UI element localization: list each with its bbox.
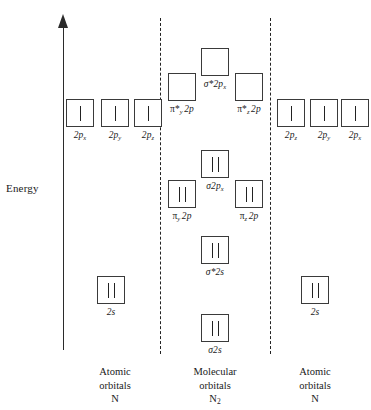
caption-left-species: N [99, 392, 131, 406]
orbital-label-sigma-star-2s: σ*2s [206, 267, 224, 277]
orbital-label-left-2s: 2s [107, 307, 116, 317]
orbital-label-pi-y-2p: πy2p [172, 211, 191, 221]
caption-molecular: Molecular orbitals N2 [193, 365, 236, 407]
orbital-label-sigma-2s: σ2s [208, 345, 221, 355]
mo-diagram: Energy 2px2py2pz2sσ*2pxπ*y2pπ*z2pσ2pxπy2… [0, 0, 371, 410]
energy-axis-line [63, 26, 64, 350]
electron-arrow-icon [148, 106, 149, 121]
electron-arrow-icon [324, 106, 325, 121]
orbital-label-left-2py: 2py [109, 130, 122, 140]
orbital-box-right-2pz[interactable] [277, 99, 305, 127]
orbital-label-sigma-star-2px: σ*2px [204, 79, 226, 89]
orbital-label-right-2py: 2py [318, 130, 331, 140]
caption-right-atomic: Atomic orbitals N [299, 365, 331, 406]
orbital-box-right-2px[interactable] [341, 99, 369, 127]
electron-arrow-icon [218, 243, 219, 258]
electron-arrow-icon [212, 321, 213, 336]
orbital-box-left-2py[interactable] [101, 99, 129, 127]
electron-arrow-icon [312, 283, 313, 298]
column-divider-left [160, 18, 161, 354]
electron-arrow-icon [108, 283, 109, 298]
electron-arrow-icon [114, 283, 115, 298]
column-divider-right [270, 18, 271, 354]
orbital-box-left-2px[interactable] [66, 99, 94, 127]
orbital-box-pi-z-2p[interactable] [235, 180, 263, 208]
caption-right-line2: orbitals [299, 379, 331, 393]
orbital-label-left-2pz: 2pz [142, 130, 154, 140]
orbital-label-pi-star-z-2p: π*z2p [237, 104, 261, 114]
orbital-label-right-2pz: 2pz [285, 130, 297, 140]
caption-right-line1: Atomic [299, 365, 331, 379]
energy-axis-label: Energy [6, 182, 39, 194]
caption-center-line1: Molecular [193, 365, 236, 379]
electron-arrow-icon [318, 283, 319, 298]
orbital-box-right-2s[interactable] [301, 276, 329, 304]
caption-right-species: N [299, 392, 331, 406]
electron-arrow-icon [246, 187, 247, 202]
electron-arrow-icon [218, 321, 219, 336]
orbital-box-sigma-star-2px[interactable] [201, 48, 229, 76]
orbital-box-sigma-2px[interactable] [201, 150, 229, 178]
electron-arrow-icon [185, 187, 186, 202]
orbital-label-right-2px: 2px [349, 130, 362, 140]
caption-left-atomic: Atomic orbitals N [99, 365, 131, 406]
orbital-box-left-2pz[interactable] [134, 99, 162, 127]
orbital-label-pi-star-y-2p: π*y2p [170, 104, 194, 114]
orbital-label-sigma-2px: σ2px [206, 181, 224, 191]
orbital-box-left-2s[interactable] [97, 276, 125, 304]
electron-arrow-icon [291, 106, 292, 121]
orbital-label-left-2px: 2px [74, 130, 87, 140]
caption-left-line1: Atomic [99, 365, 131, 379]
orbital-box-right-2py[interactable] [310, 99, 338, 127]
electron-arrow-icon [212, 243, 213, 258]
orbital-box-sigma-star-2s[interactable] [201, 236, 229, 264]
electron-arrow-icon [355, 106, 356, 121]
orbital-box-sigma-2s[interactable] [201, 314, 229, 342]
caption-left-line2: orbitals [99, 379, 131, 393]
caption-center-line2: orbitals [193, 379, 236, 393]
caption-center-species: N2 [193, 392, 236, 407]
orbital-label-right-2s: 2s [311, 307, 320, 317]
electron-arrow-icon [80, 106, 81, 121]
electron-arrow-icon [179, 187, 180, 202]
orbital-box-pi-star-z-2p[interactable] [235, 73, 263, 101]
electron-arrow-icon [115, 106, 116, 121]
electron-arrow-icon [218, 157, 219, 172]
orbital-box-pi-y-2p[interactable] [168, 180, 196, 208]
electron-arrow-icon [212, 157, 213, 172]
orbital-label-pi-z-2p: πz2p [240, 211, 259, 221]
electron-arrow-icon [252, 187, 253, 202]
orbital-box-pi-star-y-2p[interactable] [168, 73, 196, 101]
